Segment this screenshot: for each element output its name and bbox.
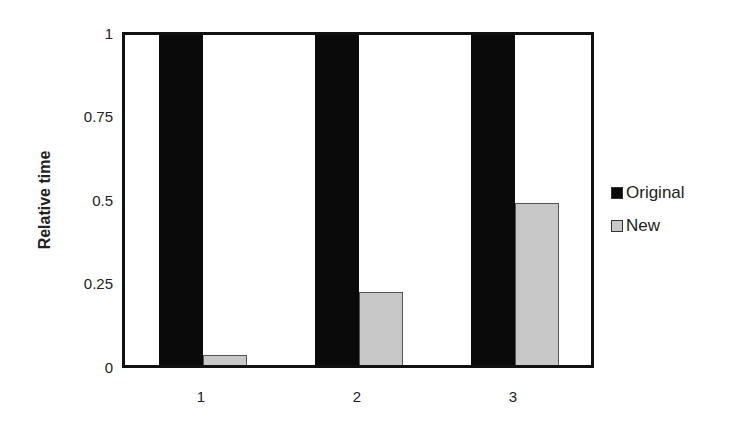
bar-new-1 bbox=[203, 355, 247, 365]
legend-label-new: New bbox=[626, 216, 660, 236]
legend: Original New bbox=[611, 176, 685, 242]
y-tick-1: 1 bbox=[105, 25, 113, 42]
bar-chart: Relative time 0 0.25 0.5 0.75 1 1 2 3 Or… bbox=[0, 0, 743, 427]
plot-area bbox=[122, 32, 594, 368]
bar-original-3 bbox=[471, 35, 515, 365]
x-tick-3: 3 bbox=[509, 388, 517, 405]
y-tick-0.5: 0.5 bbox=[92, 192, 113, 209]
legend-label-original: Original bbox=[626, 183, 685, 203]
bar-new-3 bbox=[515, 203, 559, 365]
bar-new-2 bbox=[359, 292, 403, 365]
x-tick-2: 2 bbox=[353, 388, 361, 405]
y-tick-0.25: 0.25 bbox=[84, 275, 113, 292]
bar-original-2 bbox=[315, 35, 359, 365]
y-axis-label: Relative time bbox=[36, 151, 54, 250]
legend-swatch-new bbox=[611, 220, 623, 232]
bar-original-1 bbox=[159, 35, 203, 365]
y-tick-0: 0 bbox=[105, 359, 113, 376]
x-tick-1: 1 bbox=[197, 388, 205, 405]
legend-item-original: Original bbox=[611, 176, 685, 209]
legend-swatch-original bbox=[611, 187, 623, 199]
legend-item-new: New bbox=[611, 209, 685, 242]
y-tick-0.75: 0.75 bbox=[84, 108, 113, 125]
